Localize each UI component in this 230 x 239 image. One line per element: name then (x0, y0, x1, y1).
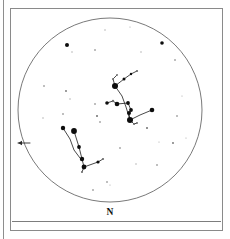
star-field-w3 (69, 98, 70, 99)
star-bellatrix (115, 102, 120, 107)
star-field-e3 (158, 141, 159, 142)
star-orion-club-a (133, 123, 135, 125)
star-field-n6 (71, 51, 72, 52)
star-field-w7 (94, 103, 96, 105)
star-field-n4 (104, 29, 105, 30)
star-field-w1 (43, 85, 45, 87)
star-field-w5 (42, 117, 43, 118)
star-rigel (127, 117, 133, 123)
star-field-s5 (119, 147, 121, 149)
star-field-e2 (172, 142, 174, 144)
star-field-s2 (109, 184, 110, 185)
star-meissa (123, 78, 126, 81)
star-orion-west-b (105, 101, 109, 105)
star-field-e5 (156, 164, 158, 166)
star-field-c1 (99, 121, 101, 123)
star-field-n3 (94, 49, 96, 51)
star-field-s6 (81, 171, 83, 173)
star-alnilam (129, 108, 133, 112)
star-field-w4 (62, 113, 64, 115)
star-orion-upper-a (112, 78, 114, 80)
star-orion-west-a (112, 100, 114, 102)
star-taurus-b (77, 145, 81, 149)
star-field-s3 (92, 189, 94, 191)
star-field-w2 (65, 90, 67, 92)
star-field-e4 (185, 137, 186, 138)
star-taurus-f (102, 158, 104, 160)
star-chart: N (0, 0, 230, 239)
star-field-s4 (135, 163, 136, 164)
star-orion-club-b (136, 122, 138, 124)
star-field-n7 (140, 51, 141, 52)
star-taurus-d (82, 165, 87, 170)
star-mintaka (126, 101, 130, 105)
star-field-w6 (96, 115, 98, 117)
star-taurus-g (61, 126, 65, 130)
direction-label-north: N (107, 207, 114, 217)
star-betelgeuse (112, 83, 118, 89)
star-field-e1 (176, 115, 178, 117)
star-field-n1 (65, 43, 69, 47)
direction-labels: N (107, 207, 114, 217)
star-field-s1 (106, 181, 108, 183)
star-aldebaran (71, 128, 77, 134)
star-taurus-e (96, 160, 99, 163)
star-field-n8 (174, 59, 176, 61)
sky-chart-canvas: N (0, 0, 230, 239)
star-saiph (150, 108, 155, 113)
star-field-n2 (160, 41, 164, 45)
star-field-n5 (129, 26, 130, 27)
star-field-e6 (181, 95, 182, 96)
chart-frame (11, 9, 223, 231)
star-orion-arc-3 (136, 70, 138, 72)
star-taurus-c (80, 157, 84, 161)
star-orion-upper-b (116, 74, 118, 76)
star-orion-arc-2 (130, 73, 132, 75)
star-field-s7 (146, 127, 148, 129)
